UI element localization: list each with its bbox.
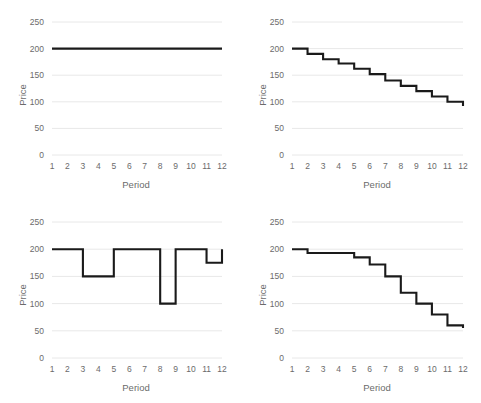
x-tick-label: 6 (367, 364, 372, 374)
y-tick-label: 200 (30, 44, 44, 54)
y-tick-label: 150 (270, 271, 284, 281)
x-tick-label: 3 (81, 364, 86, 374)
y-tick-label: 0 (279, 353, 284, 363)
y-tick-label: 0 (279, 150, 284, 160)
x-tick-label: 8 (158, 161, 163, 171)
x-tick-label: 8 (398, 161, 403, 171)
price-series-line (292, 249, 463, 328)
x-tick-label: 3 (321, 161, 326, 171)
y-tick-label: 250 (30, 217, 44, 227)
x-tick-label: 7 (142, 364, 147, 374)
x-tick-label: 10 (186, 161, 196, 171)
x-tick-label: 3 (321, 364, 326, 374)
y-axis-title: Price (257, 284, 268, 306)
price-series-line (292, 49, 463, 106)
chart-panel-top-right: 050100150200250 123456789101112 Price Pe… (240, 0, 481, 200)
gridlines-bottom-right (292, 222, 463, 358)
x-tick-label: 5 (352, 364, 357, 374)
x-tick-label: 1 (50, 364, 55, 374)
chart-svg-top-right: 050100150200250 123456789101112 Price Pe… (240, 0, 481, 200)
x-tick-label: 7 (383, 364, 388, 374)
chart-svg-bottom-left: 050100150200250 123456789101112 Price Pe… (0, 200, 240, 403)
x-tick-label: 1 (50, 161, 55, 171)
ytick-labels-bottom-right: 050100150200250 (270, 217, 284, 363)
x-tick-label: 6 (127, 364, 132, 374)
x-tick-label: 11 (443, 161, 452, 171)
x-tick-label: 9 (173, 364, 178, 374)
x-tick-label: 8 (158, 364, 163, 374)
y-tick-label: 50 (275, 123, 285, 133)
x-tick-label: 10 (427, 364, 437, 374)
x-tick-label: 11 (202, 161, 211, 171)
chart-svg-top-left: 050100150200250 123456789101112 Price Pe… (0, 0, 240, 200)
y-tick-label: 100 (30, 97, 44, 107)
y-tick-label: 100 (270, 299, 284, 309)
x-axis-title: Period (122, 179, 149, 190)
chart-svg-bottom-right: 050100150200250 123456789101112 Price Pe… (240, 200, 481, 403)
y-tick-label: 100 (30, 299, 44, 309)
y-tick-label: 100 (270, 97, 284, 107)
x-tick-label: 7 (142, 161, 147, 171)
gridlines-top-right (292, 22, 463, 155)
x-tick-label: 12 (217, 161, 227, 171)
x-tick-label: 2 (65, 364, 70, 374)
x-tick-label: 8 (398, 364, 403, 374)
y-tick-label: 50 (35, 123, 45, 133)
chart-panel-bottom-right: 050100150200250 123456789101112 Price Pe… (240, 200, 481, 403)
x-tick-label: 10 (427, 161, 437, 171)
gridlines-top-left (52, 22, 222, 155)
y-tick-label: 50 (35, 326, 45, 336)
y-axis-title: Price (17, 284, 28, 306)
chart-panel-bottom-left: 050100150200250 123456789101112 Price Pe… (0, 200, 240, 403)
x-tick-label: 6 (127, 161, 132, 171)
ytick-labels-top-left: 050100150200250 (30, 17, 44, 160)
y-tick-label: 250 (270, 217, 284, 227)
x-tick-label: 2 (305, 161, 310, 171)
x-tick-label: 9 (414, 364, 419, 374)
x-tick-label: 2 (305, 364, 310, 374)
x-axis-title: Period (363, 179, 390, 190)
x-tick-label: 7 (383, 161, 388, 171)
y-tick-label: 150 (30, 271, 44, 281)
x-tick-label: 4 (96, 161, 101, 171)
x-tick-label: 3 (81, 161, 86, 171)
gridlines-bottom-left (52, 222, 222, 358)
xtick-labels-bottom-left: 123456789101112 (50, 364, 227, 374)
x-tick-label: 12 (458, 364, 468, 374)
y-axis-title: Price (257, 84, 268, 106)
x-tick-label: 2 (65, 161, 70, 171)
xtick-labels-top-left: 123456789101112 (50, 161, 227, 171)
y-tick-label: 250 (270, 17, 284, 27)
x-tick-label: 5 (111, 364, 116, 374)
y-axis-title: Price (17, 84, 28, 106)
chart-panel-top-left: 050100150200250 123456789101112 Price Pe… (0, 0, 240, 200)
x-tick-label: 12 (217, 364, 227, 374)
x-tick-label: 11 (202, 364, 211, 374)
x-tick-label: 4 (336, 161, 341, 171)
xtick-labels-bottom-right: 123456789101112 (290, 364, 468, 374)
y-tick-label: 0 (39, 353, 44, 363)
x-tick-label: 11 (443, 364, 452, 374)
x-tick-label: 4 (336, 364, 341, 374)
x-tick-label: 5 (352, 161, 357, 171)
xtick-labels-top-right: 123456789101112 (290, 161, 468, 171)
y-tick-label: 50 (275, 326, 285, 336)
y-tick-label: 200 (270, 44, 284, 54)
x-tick-label: 1 (290, 364, 295, 374)
y-tick-label: 0 (39, 150, 44, 160)
x-tick-label: 12 (458, 161, 468, 171)
y-tick-label: 250 (30, 17, 44, 27)
x-tick-label: 4 (96, 364, 101, 374)
x-tick-label: 9 (173, 161, 178, 171)
ytick-labels-top-right: 050100150200250 (270, 17, 284, 160)
x-tick-label: 1 (290, 161, 295, 171)
y-tick-label: 150 (270, 70, 284, 80)
chart-grid: 050100150200250 123456789101112 Price Pe… (0, 0, 481, 403)
x-tick-label: 6 (367, 161, 372, 171)
x-tick-label: 10 (186, 364, 196, 374)
x-axis-title: Period (363, 382, 390, 393)
y-tick-label: 200 (30, 244, 44, 254)
x-axis-title: Period (122, 382, 149, 393)
ytick-labels-bottom-left: 050100150200250 (30, 217, 44, 363)
y-tick-label: 150 (30, 70, 44, 80)
